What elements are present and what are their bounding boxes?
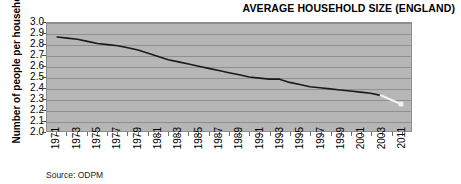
x-axis-tick-label: 1987 [214,125,224,157]
x-axis-tick-label: 1985 [194,125,204,157]
y-axis-tick-labels: 3.02.92.82.72.62.52.42.32.22.12.0 [18,22,44,132]
x-axis-tick-label: 2003 [377,125,387,157]
x-axis-tick-label: 1977 [112,125,122,157]
x-axis-tick-label: 2011 [397,125,407,157]
x-axis-tick-label: 1975 [92,125,102,157]
data-line-actual [57,37,381,95]
x-axis-tick-label: 1979 [133,125,143,157]
x-axis-tick-label: 1997 [316,125,326,157]
source-note: Source: ODPM [46,170,103,180]
series-lines [47,23,411,131]
projection-end-marker [398,102,403,107]
data-line-projection [381,95,401,104]
x-axis-tick-label: 1993 [275,125,285,157]
x-axis-tick-label: 1995 [295,125,305,157]
x-axis-tick-label: 1971 [51,125,61,157]
x-axis-tick-label: 1973 [72,125,82,157]
x-axis-tick-label: 1989 [234,125,244,157]
plot-area [46,22,412,132]
chart-figure: AVERAGE HOUSEHOLD SIZE (ENGLAND) Number … [0,0,461,184]
chart-title: AVERAGE HOUSEHOLD SIZE (ENGLAND) [243,2,455,14]
x-axis-tick-label: 1991 [255,125,265,157]
x-axis-tick-labels: 1971197319751977197919811983198519871989… [46,136,412,168]
x-axis-tick-label: 2001 [356,125,366,157]
x-axis-tick-label: 1999 [336,125,346,157]
x-axis-tick-label: 1983 [173,125,183,157]
x-axis-tick-label: 1981 [153,125,163,157]
